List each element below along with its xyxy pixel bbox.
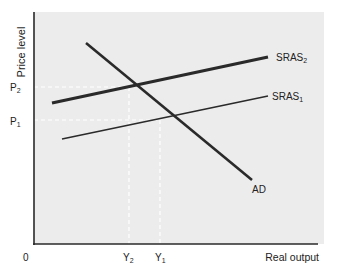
y-axis-label: Price level — [15, 27, 27, 78]
y1-label: Y1 — [155, 252, 166, 264]
origin-label: 0 — [23, 252, 29, 263]
ad-as-diagram: Price level P2 P1 SRAS2 SRAS1 AD 0 Y2 Y1… — [0, 0, 338, 279]
p2-label: P2 — [10, 82, 21, 94]
sras2-label: SRAS2 — [276, 52, 307, 64]
y2-label: Y2 — [123, 252, 134, 264]
ad-label: AD — [252, 184, 266, 195]
x-axis-label: Real output — [265, 251, 319, 263]
plot-area — [34, 12, 324, 244]
p1-label: P1 — [10, 116, 21, 128]
sras1-label: SRAS1 — [272, 91, 303, 103]
